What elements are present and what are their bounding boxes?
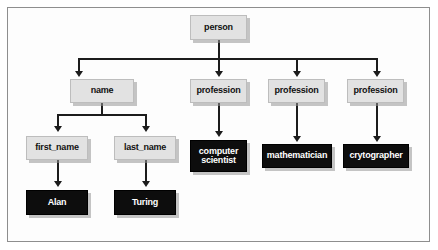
node-person-label: person bbox=[191, 23, 246, 32]
node-profession-1-label: profession bbox=[191, 86, 246, 95]
node-value-first-name[interactable]: Alan bbox=[26, 190, 88, 215]
diagram-canvas: person name profession profession profes… bbox=[0, 0, 438, 250]
connector-profession-1-to-value bbox=[218, 103, 220, 133]
connector-person-bus bbox=[78, 58, 378, 60]
node-person[interactable]: person bbox=[190, 15, 247, 40]
connector-last-name-to-value bbox=[145, 160, 147, 183]
arrowhead-profession-2 bbox=[293, 71, 301, 77]
node-profession-2[interactable]: profession bbox=[268, 79, 325, 103]
arrowhead-value-last-name bbox=[142, 181, 150, 187]
node-profession-3[interactable]: profession bbox=[347, 79, 404, 103]
node-name[interactable]: name bbox=[70, 79, 134, 103]
node-last-name[interactable]: last_name bbox=[114, 136, 176, 160]
node-last-name-label: last_name bbox=[115, 143, 175, 152]
node-value-profession-3-label: crytographer bbox=[344, 151, 408, 160]
node-first-name-label: first_name bbox=[27, 143, 87, 152]
node-value-first-name-label: Alan bbox=[27, 198, 87, 207]
node-value-profession-2-label: mathematician bbox=[263, 151, 331, 160]
node-profession-2-label: profession bbox=[269, 86, 324, 95]
arrowhead-name bbox=[75, 71, 83, 77]
node-value-profession-1[interactable]: computer scientist bbox=[190, 140, 247, 172]
connector-profession-2-to-value bbox=[296, 103, 298, 138]
arrowhead-value-profession-3 bbox=[373, 136, 381, 142]
node-value-last-name[interactable]: Turing bbox=[114, 190, 176, 215]
node-profession-1[interactable]: profession bbox=[190, 79, 247, 103]
node-value-last-name-label: Turing bbox=[115, 198, 175, 207]
connector-name-bus bbox=[57, 114, 147, 116]
connector-first-name-to-value bbox=[57, 160, 59, 183]
connector-profession-3-to-value bbox=[376, 103, 378, 138]
node-name-label: name bbox=[71, 86, 133, 95]
arrowhead-value-profession-2 bbox=[293, 136, 301, 142]
arrowhead-value-first-name bbox=[54, 181, 62, 187]
arrowhead-profession-3 bbox=[373, 71, 381, 77]
arrowhead-first-name bbox=[54, 126, 62, 132]
node-value-profession-1-label: computer scientist bbox=[191, 147, 246, 166]
arrowhead-profession-1 bbox=[215, 71, 223, 77]
connector-person-stem bbox=[218, 40, 220, 59]
node-first-name[interactable]: first_name bbox=[26, 136, 88, 160]
arrowhead-last-name bbox=[142, 126, 150, 132]
node-profession-3-label: profession bbox=[348, 86, 403, 95]
arrowhead-value-profession-1 bbox=[215, 131, 223, 137]
node-value-profession-3[interactable]: crytographer bbox=[343, 144, 409, 168]
node-value-profession-2[interactable]: mathematician bbox=[262, 144, 332, 168]
